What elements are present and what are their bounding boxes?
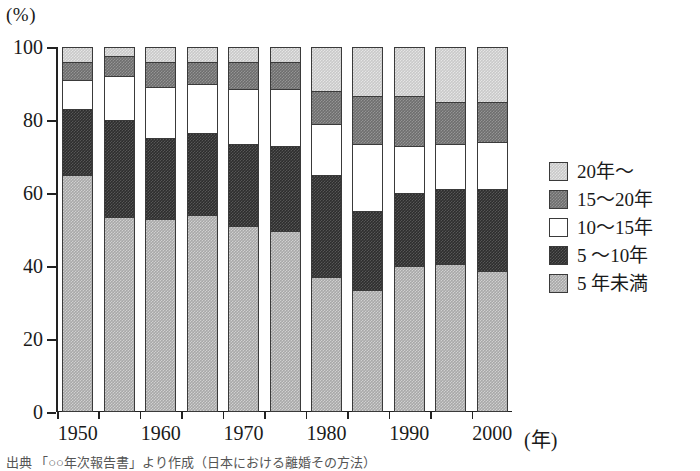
bar-segment <box>270 47 301 62</box>
bar-segment <box>477 102 508 142</box>
bar-segment <box>311 277 342 412</box>
bar-segment <box>394 96 425 145</box>
stacked-bar[interactable] <box>435 47 466 412</box>
bar-segment <box>187 47 218 62</box>
legend-item[interactable]: 15～20年 <box>549 186 653 212</box>
x-tick-mark <box>389 412 391 419</box>
x-tick-mark <box>306 412 308 419</box>
bar-segment <box>352 211 383 289</box>
y-tick-mark <box>47 339 56 341</box>
stacked-bar[interactable] <box>311 47 342 412</box>
x-tick-label: 1980 <box>306 422 346 445</box>
y-tick-label: 0 <box>33 401 43 424</box>
bar-segment <box>435 144 466 190</box>
legend: 20年～15～20年10～15年5 ～10年5 年未満 <box>549 158 653 298</box>
bar-segment <box>394 193 425 266</box>
stacked-bar[interactable] <box>352 47 383 412</box>
legend-swatch-icon <box>549 274 568 293</box>
y-tick-label: 100 <box>13 36 43 59</box>
legend-item[interactable]: 5 ～10年 <box>549 242 653 268</box>
bar-segment <box>228 47 259 62</box>
source-caption: 出典 「○○年次報告書」より作成（日本における離婚その方法） <box>6 452 696 471</box>
bar-segment <box>435 102 466 144</box>
legend-item[interactable]: 5 年未満 <box>549 270 653 296</box>
legend-item[interactable]: 20年～ <box>549 158 653 184</box>
legend-item-label: 5 年未満 <box>577 274 648 293</box>
stacked-bar[interactable] <box>104 47 135 412</box>
y-tick-mark <box>47 266 56 268</box>
bar-segment <box>477 47 508 102</box>
bar-segment <box>187 133 218 215</box>
legend-item-label: 10～15年 <box>577 218 653 237</box>
bar-segment <box>477 189 508 271</box>
bar-segment <box>394 47 425 96</box>
stacked-bar[interactable] <box>228 47 259 412</box>
y-axis-unit-label: (%) <box>6 4 36 26</box>
bar-segment <box>270 231 301 412</box>
bar-segment <box>311 124 342 175</box>
bar-segment <box>477 271 508 412</box>
bar-segment <box>352 96 383 143</box>
bar-segment <box>228 226 259 412</box>
stacked-bar[interactable] <box>270 47 301 412</box>
y-tick-label: 80 <box>23 109 43 132</box>
x-tick-label: 1950 <box>58 422 98 445</box>
x-tick-mark <box>98 412 100 419</box>
stacked-bar[interactable] <box>477 47 508 412</box>
x-tick-label: 1970 <box>224 422 264 445</box>
bar-segment <box>352 144 383 212</box>
x-tick-mark <box>430 412 432 419</box>
legend-item-label: 15～20年 <box>577 190 653 209</box>
bar-segment <box>435 47 466 102</box>
stacked-bar[interactable] <box>187 47 218 412</box>
y-tick-mark <box>47 120 56 122</box>
legend-item-label: 20年～ <box>577 162 634 181</box>
bar-segment <box>104 56 135 76</box>
bar-segment <box>228 89 259 144</box>
bar-segment <box>228 62 259 89</box>
bar-segment <box>62 175 93 412</box>
y-tick-label: 20 <box>23 328 43 351</box>
bar-segment <box>394 266 425 412</box>
x-axis-unit-label: (年) <box>524 424 557 453</box>
bar-segment <box>104 47 135 56</box>
bar-segment <box>311 175 342 277</box>
x-tick-mark <box>181 412 183 419</box>
x-tick-mark <box>264 412 266 419</box>
y-tick-mark <box>47 193 56 195</box>
bar-segment <box>145 62 176 88</box>
stacked-bar[interactable] <box>394 47 425 412</box>
bar-segment <box>228 144 259 226</box>
bar-segment <box>104 120 135 217</box>
y-tick-mark <box>47 412 56 414</box>
y-axis-line <box>56 47 58 412</box>
bar-segment <box>311 91 342 124</box>
x-tick-label: 1990 <box>389 422 429 445</box>
bar-segment <box>187 62 218 84</box>
bar-segment <box>352 290 383 412</box>
x-tick-mark <box>347 412 349 419</box>
y-tick-mark <box>47 47 56 49</box>
x-tick-mark <box>57 412 59 419</box>
stacked-bar[interactable] <box>145 47 176 412</box>
y-tick-label: 40 <box>23 255 43 278</box>
bar-segment <box>270 146 301 232</box>
bar-segment <box>62 109 93 175</box>
legend-item-label: 5 ～10年 <box>577 246 648 265</box>
legend-swatch-icon <box>549 218 568 237</box>
legend-swatch-icon <box>549 246 568 265</box>
bar-segment <box>435 189 466 264</box>
stacked-bar[interactable] <box>62 47 93 412</box>
bar-segment <box>187 84 218 133</box>
bar-segment <box>62 47 93 62</box>
bar-segment <box>62 62 93 80</box>
bar-segment <box>145 219 176 412</box>
bar-segment <box>477 142 508 189</box>
x-tick-mark <box>472 412 474 419</box>
x-tick-label: 2000 <box>472 422 512 445</box>
bar-segment <box>104 217 135 412</box>
bar-segment <box>145 138 176 218</box>
legend-item[interactable]: 10～15年 <box>549 214 653 240</box>
legend-swatch-icon <box>549 190 568 209</box>
